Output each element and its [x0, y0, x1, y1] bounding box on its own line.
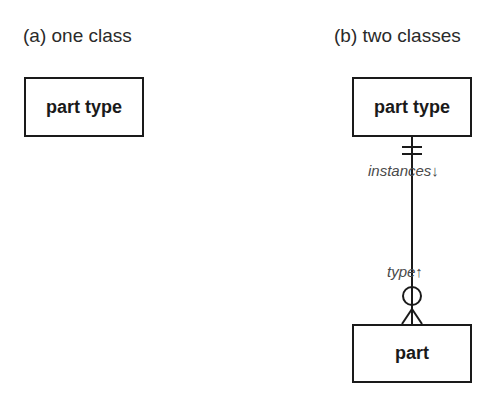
class-box-part-type-b: part type [352, 77, 472, 137]
class-label: part [395, 343, 429, 364]
role-label-type: type↑ [387, 264, 423, 279]
role-label-instances: instances↓ [368, 163, 439, 178]
class-label: part type [374, 97, 450, 118]
class-box-part: part [352, 324, 472, 383]
